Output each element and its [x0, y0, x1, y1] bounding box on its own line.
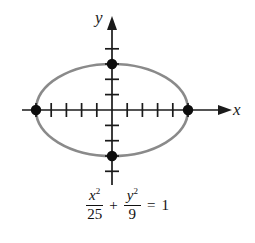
y-term-denominator: 9 — [129, 206, 137, 223]
y-axis-label: y — [95, 9, 103, 26]
equation-plus-operator: + — [108, 198, 118, 213]
ellipse-figure: y x x2 25 + y2 9 = 1 — [0, 0, 255, 243]
x-axis-label: x — [233, 101, 241, 118]
point-top-co-vertex — [107, 59, 117, 69]
point-bottom-co-vertex — [107, 151, 117, 161]
x-variable: x — [89, 187, 96, 203]
equation-row: x2 25 + y2 9 = 1 — [86, 188, 169, 223]
equation-equals-sign: = — [146, 198, 156, 213]
equation-right-hand-side: 1 — [161, 198, 169, 213]
x-axis-arrowhead — [218, 105, 232, 115]
y-term-numerator: y2 — [124, 188, 141, 206]
ellipse-equation: x2 25 + y2 9 = 1 — [0, 188, 255, 223]
x-term-fraction: x2 25 — [86, 188, 103, 223]
y-exponent: 2 — [133, 186, 138, 196]
y-axis-arrowhead — [107, 16, 117, 30]
y-term-fraction: y2 9 — [124, 188, 141, 223]
x-term-numerator: x2 — [86, 188, 103, 206]
point-left-vertex — [31, 105, 41, 115]
x-exponent: 2 — [96, 186, 101, 196]
point-right-vertex — [183, 105, 193, 115]
x-term-denominator: 25 — [87, 206, 102, 223]
